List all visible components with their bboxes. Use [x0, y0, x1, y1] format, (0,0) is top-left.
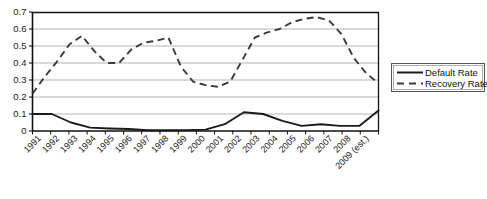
y-tick-label: 0.7 — [13, 6, 26, 17]
y-tick-label: 0.5 — [13, 40, 26, 51]
y-tick-label: 0.4 — [13, 57, 26, 68]
chart-container: 00.10.20.30.40.50.60.7 19911992199319941… — [0, 0, 487, 199]
y-tick-label: 0.1 — [13, 108, 26, 119]
y-tick-label: 0.3 — [13, 74, 26, 85]
line-chart: 00.10.20.30.40.50.60.7 19911992199319941… — [0, 0, 487, 199]
y-tick-label: 0.6 — [13, 23, 26, 34]
y-tick-label: 0 — [21, 125, 26, 136]
chart-legend: Default Rate Recovery Rate — [392, 64, 487, 92]
legend-label-default-rate: Default Rate — [425, 67, 478, 78]
chart-background — [0, 0, 487, 199]
y-tick-label: 0.2 — [13, 91, 26, 102]
legend-label-recovery-rate: Recovery Rate — [425, 78, 487, 89]
